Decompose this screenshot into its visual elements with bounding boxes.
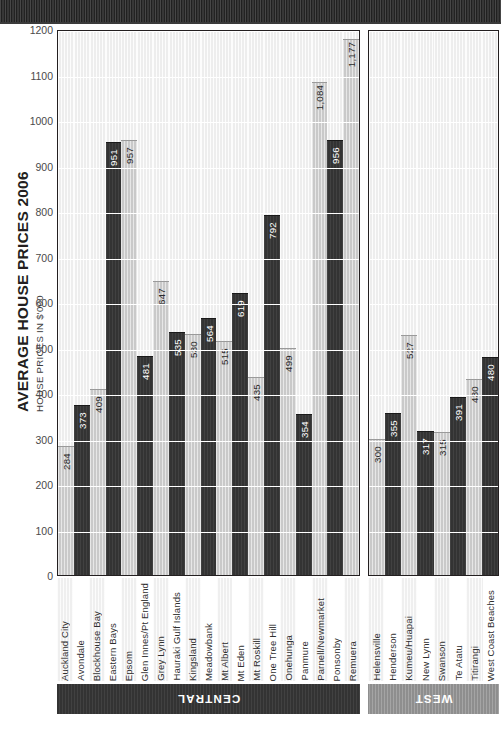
- category-label-cell: Kumeu/Huapai: [401, 578, 417, 681]
- category-label-cell: Mt Roskill: [248, 578, 264, 681]
- bar[interactable]: 515: [216, 341, 232, 575]
- category-label: Helensville: [371, 631, 382, 681]
- gridline: [369, 259, 498, 260]
- bar[interactable]: 284: [58, 446, 74, 575]
- category-label-cell: West Coast Beaches: [483, 578, 499, 681]
- gridline: [58, 486, 359, 487]
- bar[interactable]: 564: [201, 318, 217, 575]
- category-label: Grey Lynn: [155, 634, 166, 681]
- category-label-cell: Titirangi: [466, 578, 482, 681]
- bar[interactable]: 956: [327, 140, 343, 575]
- y-axis-tick: 200: [35, 479, 53, 491]
- bar-slot: 1,177: [343, 31, 359, 575]
- bar-value-label: 951: [108, 149, 119, 166]
- bar-slot: 1,084: [312, 31, 328, 575]
- y-axis-tick: 600: [35, 297, 53, 309]
- category-label-cell: Swanson: [434, 578, 450, 681]
- bar[interactable]: 354: [296, 414, 312, 575]
- category-label-cell: Grey Lynn: [153, 578, 169, 681]
- bar[interactable]: 1,084: [312, 82, 328, 575]
- bar[interactable]: 355: [385, 413, 401, 575]
- category-labels-central: Auckland CityAvondaleBlockhouse BayEaste…: [57, 578, 360, 681]
- bar[interactable]: 951: [106, 142, 122, 575]
- bar-slot: 355: [385, 31, 401, 575]
- bar-slot: 435: [248, 31, 264, 575]
- bar-slot: 619: [232, 31, 248, 575]
- bar[interactable]: 315: [434, 432, 450, 575]
- bar-slot: 315: [434, 31, 450, 575]
- bar[interactable]: 957: [121, 140, 137, 575]
- bar-slot: 499: [280, 31, 296, 575]
- bar-slot: 317: [417, 31, 433, 575]
- category-label-cell: Eastern Bays: [105, 578, 121, 681]
- y-axis-tick: 300: [35, 434, 53, 446]
- bar-slot: 391: [450, 31, 466, 575]
- bar[interactable]: 373: [74, 405, 90, 575]
- gridline: [369, 395, 498, 396]
- bar[interactable]: 527: [401, 335, 417, 575]
- bar[interactable]: 1,177: [343, 39, 359, 575]
- bar-value-label: 391: [452, 404, 463, 421]
- category-label-cell: Mt Eden: [232, 578, 248, 681]
- bar[interactable]: 619: [232, 293, 248, 575]
- gridline: [58, 350, 359, 351]
- category-label: Mt Roskill: [251, 636, 262, 681]
- bar[interactable]: 530: [185, 334, 201, 575]
- category-label-cell: Hauraki Gulf Islands: [169, 578, 185, 681]
- y-axis: 1200110010009008007006005004003002001000: [13, 30, 57, 576]
- category-label: Avondale: [75, 638, 86, 681]
- gridline: [369, 122, 498, 123]
- bar-slot: 564: [201, 31, 217, 575]
- category-label: Meadowbank: [203, 621, 214, 681]
- gridline: [369, 77, 498, 78]
- y-axis-tick: 1000: [30, 115, 53, 127]
- category-label: Auckland City: [59, 619, 70, 681]
- bar[interactable]: 435: [248, 377, 264, 575]
- gridline: [58, 304, 359, 305]
- bar[interactable]: 499: [280, 348, 296, 575]
- bar[interactable]: 409: [90, 389, 106, 575]
- gridline: [58, 532, 359, 533]
- bar[interactable]: 480: [482, 357, 498, 575]
- category-label-cell: Epsom: [121, 578, 137, 681]
- category-label-cell: Auckland City: [57, 578, 73, 681]
- category-label: One Tree Hill: [267, 622, 278, 681]
- bar[interactable]: 535: [169, 332, 185, 575]
- y-axis-tick: 800: [35, 206, 53, 218]
- gridline: [369, 168, 498, 169]
- bar-value-label: 1,084: [314, 85, 325, 110]
- category-label: Blockhouse Bay: [91, 609, 102, 681]
- category-label: Mt Albert: [219, 640, 230, 681]
- plot-area-central: 2843734099519574816475355305645156194357…: [57, 30, 360, 576]
- category-label-cell: Remuera: [344, 578, 360, 681]
- bar[interactable]: 430: [466, 379, 482, 575]
- gridline: [369, 304, 498, 305]
- gridline: [58, 441, 359, 442]
- y-axis-tick: 700: [35, 252, 53, 264]
- bar[interactable]: 317: [417, 431, 433, 575]
- gridline: [58, 122, 359, 123]
- category-label-cell: Henderson: [384, 578, 400, 681]
- plot-area-west: 300355527317315391430480: [368, 30, 499, 576]
- gridline: [369, 213, 498, 214]
- category-label-cell: Avondale: [73, 578, 89, 681]
- category-label-cell: Parnell/Newmarket: [312, 578, 328, 681]
- gridline: [369, 441, 498, 442]
- group-banner-west-label: WEST: [414, 693, 452, 705]
- bar-slot: 647: [153, 31, 169, 575]
- bar-slot: 956: [327, 31, 343, 575]
- bar[interactable]: 300: [369, 439, 385, 576]
- gridline: [369, 350, 498, 351]
- category-label-cell: Meadowbank: [201, 578, 217, 681]
- bar-value-label: 499: [282, 355, 293, 372]
- bar-value-label: 619: [235, 300, 246, 317]
- category-label: Swanson: [436, 639, 447, 681]
- category-label: Glen Innes/Pt England: [139, 581, 150, 681]
- bar-value-label: 300: [372, 446, 383, 463]
- gridline: [58, 395, 359, 396]
- bar[interactable]: 481: [137, 356, 153, 575]
- bar-value-label: 564: [203, 326, 214, 343]
- y-axis-tick: 1200: [30, 24, 53, 36]
- y-axis-tick: 400: [35, 388, 53, 400]
- category-label: Mt Eden: [235, 643, 246, 681]
